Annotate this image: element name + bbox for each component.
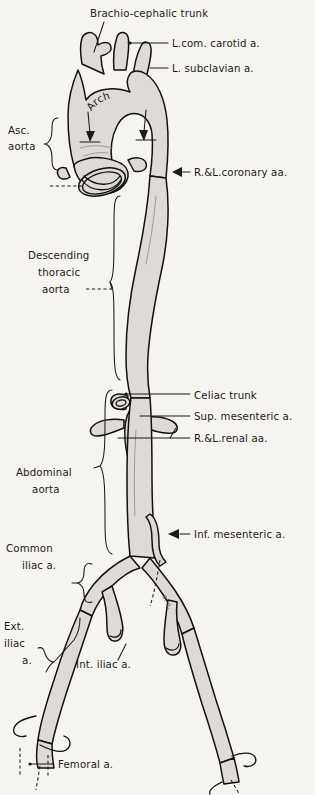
femoral-leader-dot bbox=[28, 762, 31, 765]
ascending-aorta-label-line1: Asc. bbox=[8, 125, 30, 136]
celiac-trunk-dot bbox=[124, 392, 127, 395]
brachiocephalic-trunk-label: Brachio-cephalic trunk bbox=[90, 8, 208, 19]
inferior-mesenteric-arrow-head bbox=[168, 529, 179, 539]
internal-iliac-label: Int. iliac a. bbox=[76, 659, 131, 670]
abdominal-aorta-brace-tick bbox=[94, 466, 100, 468]
external-iliac-label-line2: iliac bbox=[4, 638, 25, 649]
descending-thoracic-label-line2: thoracic bbox=[38, 267, 80, 278]
left-femoral-artery-shape bbox=[220, 758, 239, 784]
left-subclavian-label: L. subclavian a. bbox=[172, 63, 254, 74]
left-common-carotid-label: L.com. carotid a. bbox=[172, 38, 260, 49]
descending-thoracic-aorta-shape bbox=[126, 176, 168, 398]
femoral-artery-label: Femoral a. bbox=[58, 759, 113, 770]
inferior-mesenteric-label: Inf. mesenteric a. bbox=[194, 529, 285, 540]
ascending-aorta-label-line2: aorta bbox=[8, 141, 36, 152]
right-femoral-cut-line bbox=[36, 766, 40, 790]
abdominal-aorta-label-line2: aorta bbox=[32, 484, 60, 495]
right-deep-femoral-branch bbox=[14, 716, 36, 737]
superior-mesenteric-label: Sup. mesenteric a. bbox=[194, 411, 292, 422]
abdominal-aorta-label-line1: Abdominal bbox=[16, 467, 72, 478]
right-external-iliac-artery-shape bbox=[38, 610, 92, 744]
renal-arteries-label: R.&L.renal aa. bbox=[194, 433, 268, 444]
descending-thoracic-label-line1: Descending bbox=[28, 250, 89, 261]
left-coronary-artery-stump bbox=[128, 158, 146, 172]
external-iliac-label-line1: Ext. bbox=[4, 621, 24, 632]
celiac-trunk-label: Celiac trunk bbox=[194, 390, 257, 401]
left-common-carotid-dot bbox=[128, 41, 131, 44]
coronary-arrow-head bbox=[172, 167, 182, 177]
brachiocephalic-trunk-shape bbox=[81, 33, 112, 74]
common-iliac-label-line1: Common bbox=[6, 543, 53, 554]
left-common-carotid-artery-shape bbox=[114, 33, 129, 71]
common-iliac-label-line2: iliac a. bbox=[22, 560, 56, 571]
left-deep-femoral-branch bbox=[210, 782, 222, 794]
external-iliac-label-line3: a. bbox=[22, 655, 32, 666]
abdominal-aorta-brace bbox=[100, 390, 112, 554]
ascending-aorta-brace bbox=[46, 118, 58, 170]
right-renal-artery-shape bbox=[90, 419, 124, 436]
right-coronary-artery-stump bbox=[57, 167, 70, 179]
descending-thoracic-label-line3: aorta bbox=[42, 284, 70, 295]
internal-iliac-leader bbox=[118, 644, 126, 660]
arch-arrow-right-head bbox=[139, 130, 148, 141]
coronary-arteries-label: R.&L.coronary aa. bbox=[194, 167, 287, 178]
aorta-and-branches-figure: a. a. Arch Brachio-cephalic trunk L.com.… bbox=[0, 0, 315, 795]
left-external-iliac-artery-shape bbox=[182, 628, 234, 763]
right-internal-iliac-artery-shape bbox=[102, 586, 123, 641]
external-iliac-brace bbox=[38, 648, 54, 672]
